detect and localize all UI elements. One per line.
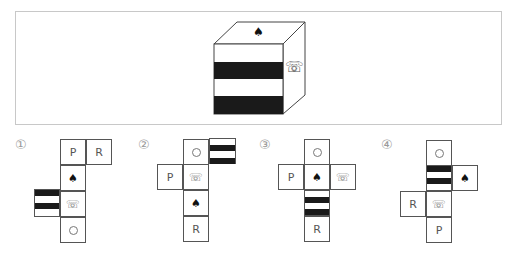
face-letter: R [192, 223, 200, 236]
net-face: ☏ [330, 164, 356, 190]
net-face: P [426, 217, 452, 243]
option-label: ② [138, 138, 150, 152]
telephone-icon: ☏ [432, 198, 446, 211]
stripe [427, 178, 451, 184]
spade-icon: ♠ [253, 25, 264, 39]
telephone-icon: ☏ [66, 198, 80, 211]
spade-icon: ♠ [460, 172, 470, 185]
net-face [183, 139, 209, 165]
face-letter: R [313, 223, 321, 236]
net-face [60, 217, 86, 243]
spade-icon: ♠ [68, 172, 78, 185]
stripe [210, 145, 235, 151]
stripe [305, 197, 329, 203]
net-face-stripes [304, 190, 330, 216]
net-face: ♠ [304, 164, 330, 190]
option-label: ① [15, 138, 27, 152]
stripe [35, 203, 59, 209]
stripe [305, 209, 329, 215]
option-label: ④ [381, 138, 393, 152]
spade-icon: ♠ [312, 171, 322, 184]
net-face [304, 139, 330, 165]
net-face: ☏ [426, 191, 452, 217]
net-face: R [86, 139, 112, 165]
stripe [427, 166, 451, 172]
telephone-icon: ☏ [285, 58, 304, 76]
net-face-stripes [209, 138, 236, 164]
net-face: P [278, 164, 304, 190]
stripe [35, 190, 59, 196]
circle-icon [192, 148, 201, 157]
face-letter: P [70, 146, 77, 159]
telephone-icon: ☏ [189, 171, 203, 184]
circle-icon [435, 149, 444, 158]
net-face: P [60, 139, 86, 165]
net-face: R [304, 216, 330, 242]
net-face-stripes [34, 189, 60, 217]
face-letter: P [288, 171, 295, 184]
net-face: R [183, 216, 209, 242]
circle-icon [313, 148, 322, 157]
net-face [426, 140, 452, 166]
stripe [210, 158, 235, 164]
net-face: ♠ [183, 190, 209, 216]
net-face: ☏ [60, 191, 86, 217]
face-letter: R [409, 198, 417, 211]
net-face-stripes [426, 165, 452, 191]
option-label: ③ [259, 138, 271, 152]
spade-icon: ♠ [191, 197, 201, 210]
circle-icon [69, 226, 78, 235]
net-face: ☏ [183, 164, 209, 190]
telephone-icon: ☏ [336, 171, 350, 184]
net-face: P [157, 164, 183, 190]
net-face: ♠ [452, 165, 478, 191]
net-face: R [400, 191, 426, 217]
cube-figure [0, 0, 510, 130]
face-letter: P [167, 171, 174, 184]
face-letter: P [436, 224, 443, 237]
face-letter: R [95, 146, 103, 159]
net-face: ♠ [60, 165, 86, 191]
